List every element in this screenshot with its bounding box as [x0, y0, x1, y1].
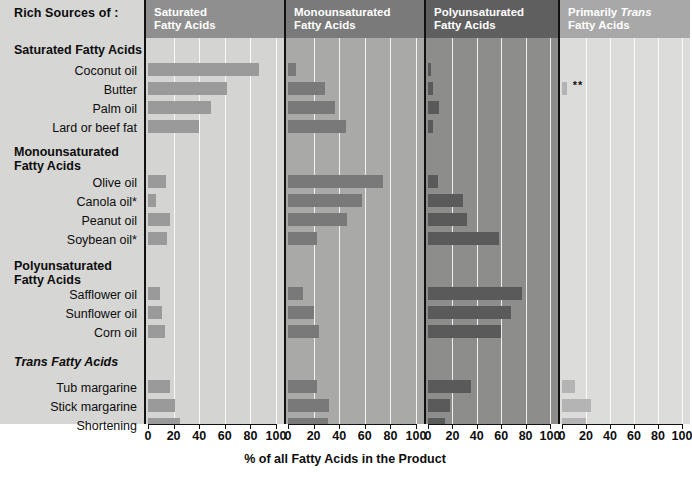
bar-olive-oil-saturated-fatty-acids — [148, 175, 166, 188]
panel-separator — [144, 0, 146, 424]
panel-saturated-fatty-acids: Saturated Fatty Acids — [146, 0, 285, 424]
gridline-40 — [199, 38, 200, 424]
gridline-80 — [250, 38, 251, 424]
tick-label-80: 80 — [651, 429, 665, 443]
tick-label-60: 60 — [218, 429, 232, 443]
bar-butter-primarily-trans-fatty-acids — [562, 82, 567, 95]
bar-corn-oil-saturated-fatty-acids — [148, 325, 165, 338]
panel-primarily-trans-fatty-acids: Primarily TransFatty Acids** — [560, 0, 690, 424]
tick-label-0: 0 — [285, 429, 292, 443]
gridline-60 — [634, 38, 635, 424]
bar-soybean-oil-monounsaturated-fatty-acids — [288, 232, 317, 245]
group-heading-monounsaturated: Monounsaturated Fatty Acids — [14, 146, 119, 173]
bar-sunflower-oil-monounsaturated-fatty-acids — [288, 306, 314, 319]
category-label-column: Rich Sources of : Saturated Fatty Acids … — [0, 0, 146, 424]
bar-stick-margarine-polyunsaturated-fatty-acids — [428, 399, 450, 412]
gridline-20 — [586, 38, 587, 424]
bar-canola-oil-monounsaturated-fatty-acids — [288, 194, 362, 207]
panel-header-polyunsaturated-fatty-acids: Polyunsaturated Fatty Acids — [426, 0, 559, 38]
axis-line — [288, 424, 417, 425]
bar-coconut-oil-monounsaturated-fatty-acids — [288, 63, 296, 76]
tick-label-60: 60 — [358, 429, 372, 443]
bar-corn-oil-monounsaturated-fatty-acids — [288, 325, 319, 338]
row-label-safflower-oil: Safflower oil — [69, 288, 137, 302]
row-label-stick-margarine: Stick margarine — [50, 400, 137, 414]
x-axis-monounsaturated-fatty-acids: 020406080100 — [286, 424, 425, 444]
x-axis-primarily-trans-fatty-acids: 020406080100 — [560, 424, 690, 444]
panel-header-saturated-fatty-acids: Saturated Fatty Acids — [146, 0, 285, 38]
bar-lard-or-beef-fat-polyunsaturated-fatty-acids — [428, 120, 433, 133]
tick-label-80: 80 — [519, 429, 533, 443]
row-label-olive-oil: Olive oil — [93, 176, 137, 190]
bar-tub-margarine-polyunsaturated-fatty-acids — [428, 380, 471, 393]
row-label-palm-oil: Palm oil — [93, 102, 137, 116]
gridline-60 — [225, 38, 226, 424]
bar-lard-or-beef-fat-monounsaturated-fatty-acids — [288, 120, 346, 133]
gridline-80 — [526, 38, 527, 424]
plot-area-monounsaturated-fatty-acids — [286, 38, 425, 424]
plot-area-polyunsaturated-fatty-acids — [426, 38, 559, 424]
gridline-100 — [682, 38, 683, 424]
x-axis-saturated-fatty-acids: 020406080100 — [146, 424, 285, 444]
tick-label-80: 80 — [383, 429, 397, 443]
row-label-lard-or-beef-fat: Lard or beef fat — [52, 121, 137, 135]
axis-line — [428, 424, 551, 425]
axis-line — [148, 424, 277, 425]
tick-label-20: 20 — [445, 429, 459, 443]
tick-label-0: 0 — [425, 429, 432, 443]
plot-area-saturated-fatty-acids — [146, 38, 285, 424]
plot-area-primarily-trans-fatty-acids: ** — [560, 38, 690, 424]
panel-header-monounsaturated-fatty-acids: Monounsaturated Fatty Acids — [286, 0, 425, 38]
panel-header-primarily-trans-fatty-acids: Primarily TransFatty Acids — [560, 0, 690, 38]
axis-line — [562, 424, 683, 425]
bar-palm-oil-saturated-fatty-acids — [148, 101, 211, 114]
bar-canola-oil-polyunsaturated-fatty-acids — [428, 194, 463, 207]
bar-tub-margarine-primarily-trans-fatty-acids — [562, 380, 575, 393]
gridline-80 — [658, 38, 659, 424]
gridline-20 — [174, 38, 175, 424]
gridline-80 — [390, 38, 391, 424]
bar-palm-oil-polyunsaturated-fatty-acids — [428, 101, 439, 114]
group-heading-trans: Trans Fatty Acids — [14, 356, 118, 370]
x-axis-polyunsaturated-fatty-acids: 020406080100 — [426, 424, 559, 444]
bar-lard-or-beef-fat-saturated-fatty-acids — [148, 120, 199, 133]
bar-soybean-oil-saturated-fatty-acids — [148, 232, 167, 245]
bar-stick-margarine-saturated-fatty-acids — [148, 399, 175, 412]
tick-label-100: 100 — [406, 429, 427, 443]
tick-label-40: 40 — [603, 429, 617, 443]
bar-peanut-oil-polyunsaturated-fatty-acids — [428, 213, 467, 226]
tick-label-40: 40 — [470, 429, 484, 443]
tick-label-0: 0 — [559, 429, 566, 443]
row-label-shortening: Shortening — [77, 419, 137, 433]
panel-monounsaturated-fatty-acids: Monounsaturated Fatty Acids — [286, 0, 425, 424]
bar-olive-oil-polyunsaturated-fatty-acids — [428, 175, 438, 188]
bar-stick-margarine-primarily-trans-fatty-acids — [562, 399, 591, 412]
bar-sunflower-oil-saturated-fatty-acids — [148, 306, 162, 319]
gridline-40 — [477, 38, 478, 424]
row-label-butter: Butter — [104, 83, 137, 97]
bar-safflower-oil-monounsaturated-fatty-acids — [288, 287, 303, 300]
gridline-20 — [314, 38, 315, 424]
gridline-100 — [416, 38, 417, 424]
x-axis-title: % of all Fatty Acids in the Product — [0, 452, 690, 466]
tick-label-60: 60 — [627, 429, 641, 443]
tick-label-60: 60 — [494, 429, 508, 443]
bar-sunflower-oil-polyunsaturated-fatty-acids — [428, 306, 511, 319]
bar-canola-oil-saturated-fatty-acids — [148, 194, 156, 207]
panel-separator — [284, 0, 286, 424]
bar-stick-margarine-monounsaturated-fatty-acids — [288, 399, 329, 412]
bar-tub-margarine-monounsaturated-fatty-acids — [288, 380, 317, 393]
bar-butter-polyunsaturated-fatty-acids — [428, 82, 433, 95]
row-label-tub-margarine: Tub margarine — [56, 381, 137, 395]
bar-butter-saturated-fatty-acids — [148, 82, 227, 95]
gridline-100 — [276, 38, 277, 424]
row-label-coconut-oil: Coconut oil — [74, 64, 137, 78]
tick-label-100: 100 — [540, 429, 561, 443]
panel-separator — [424, 0, 426, 424]
bar-tub-margarine-saturated-fatty-acids — [148, 380, 170, 393]
bar-corn-oil-polyunsaturated-fatty-acids — [428, 325, 501, 338]
bar-safflower-oil-saturated-fatty-acids — [148, 287, 160, 300]
bar-soybean-oil-polyunsaturated-fatty-acids — [428, 232, 499, 245]
bar-safflower-oil-polyunsaturated-fatty-acids — [428, 287, 522, 300]
gridline-40 — [610, 38, 611, 424]
